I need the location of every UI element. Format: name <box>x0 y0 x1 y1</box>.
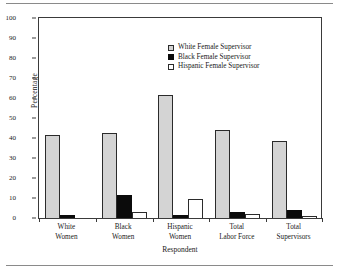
legend-swatch-icon <box>168 64 174 70</box>
x-axis-category-label-line: White <box>38 223 95 233</box>
x-axis-tick-mark <box>266 218 267 222</box>
bar-group-bars <box>39 18 96 218</box>
x-axis-category-label: WhiteWomen <box>38 223 95 242</box>
x-axis-tick-mark <box>39 218 40 222</box>
y-axis-tick-label: 70 <box>0 74 16 82</box>
bar[interactable] <box>287 210 302 218</box>
bar[interactable] <box>272 141 287 218</box>
y-axis-tick-label: 0 <box>0 214 16 222</box>
bar-group-bars <box>96 18 153 218</box>
y-axis-tick-mark <box>32 18 36 19</box>
legend-item[interactable]: White Female Supervisor <box>168 43 259 53</box>
y-axis-tick-mark <box>32 98 36 99</box>
y-axis-tick-mark <box>32 158 36 159</box>
bar-group <box>39 18 96 218</box>
x-axis-category-label-line: Women <box>95 233 152 243</box>
x-axis-tick-mark <box>96 218 97 222</box>
bar[interactable] <box>45 135 60 218</box>
y-axis-tick-label: 30 <box>0 154 16 162</box>
y-axis-tick-mark <box>32 198 36 199</box>
top-divider-rule <box>6 3 333 4</box>
y-axis-tick-mark <box>32 138 36 139</box>
y-axis-tick-label: 50 <box>0 114 16 122</box>
y-axis-tick-label: 60 <box>0 94 16 102</box>
x-axis-tick-mark <box>209 218 210 222</box>
x-axis-category-label-line: Women <box>152 233 209 243</box>
bar-group <box>96 18 153 218</box>
y-axis-tick-label: 40 <box>0 134 16 142</box>
x-axis-category-label-line: Labor Force <box>208 233 265 243</box>
bottom-divider-rule <box>6 265 333 266</box>
x-axis-tick-mark <box>153 218 154 222</box>
y-axis-tick-label: 80 <box>0 54 16 62</box>
x-axis-tick-mark <box>322 218 323 222</box>
y-axis-tick-label: 90 <box>0 34 16 42</box>
y-axis-tick-label: 100 <box>0 14 16 22</box>
x-axis-category-label-line: Women <box>38 233 95 243</box>
x-axis-title: Respondent <box>38 245 322 254</box>
chart-figure: Percentage Respondent White Female Super… <box>0 0 339 271</box>
bar-group-bars <box>266 18 323 218</box>
y-axis-tick-mark <box>32 38 36 39</box>
bar[interactable] <box>102 133 117 218</box>
x-axis-category-label: BlackWomen <box>95 223 152 242</box>
legend-swatch-icon <box>168 45 174 51</box>
bar[interactable] <box>117 195 132 218</box>
bar[interactable] <box>215 130 230 218</box>
x-axis-category-label-line: Supervisors <box>265 233 322 243</box>
bar[interactable] <box>132 212 147 218</box>
y-axis-tick-label: 20 <box>0 174 16 182</box>
x-axis-category-label: HispanicWomen <box>152 223 209 242</box>
bar[interactable] <box>188 199 203 218</box>
x-axis-category-label: TotalSupervisors <box>265 223 322 242</box>
legend-item-label: Black Female Supervisor <box>178 53 251 63</box>
legend-item-label: Hispanic Female Supervisor <box>178 62 259 72</box>
legend-swatch-icon <box>168 54 174 60</box>
legend-item-label: White Female Supervisor <box>178 43 251 53</box>
x-axis-category-label-line: Total <box>208 223 265 233</box>
x-axis-category-label-line: Hispanic <box>152 223 209 233</box>
y-axis-tick-mark <box>32 218 36 219</box>
x-axis-category-label-line: Total <box>265 223 322 233</box>
bar[interactable] <box>302 216 317 218</box>
y-axis-tick-mark <box>32 58 36 59</box>
bar-group <box>266 18 323 218</box>
x-axis-category-label-line: Black <box>95 223 152 233</box>
bar[interactable] <box>230 212 245 218</box>
y-axis-tick-mark <box>32 78 36 79</box>
bar[interactable] <box>245 214 260 218</box>
bar[interactable] <box>158 95 173 218</box>
legend-item[interactable]: Hispanic Female Supervisor <box>168 62 259 72</box>
chart-legend: White Female SupervisorBlack Female Supe… <box>168 43 259 72</box>
y-axis-tick-mark <box>32 178 36 179</box>
y-axis-tick-mark <box>32 118 36 119</box>
y-axis-tick-label: 10 <box>0 194 16 202</box>
x-axis-category-label: TotalLabor Force <box>208 223 265 242</box>
legend-item[interactable]: Black Female Supervisor <box>168 53 259 63</box>
bar[interactable] <box>60 215 75 218</box>
bar[interactable] <box>173 215 188 218</box>
